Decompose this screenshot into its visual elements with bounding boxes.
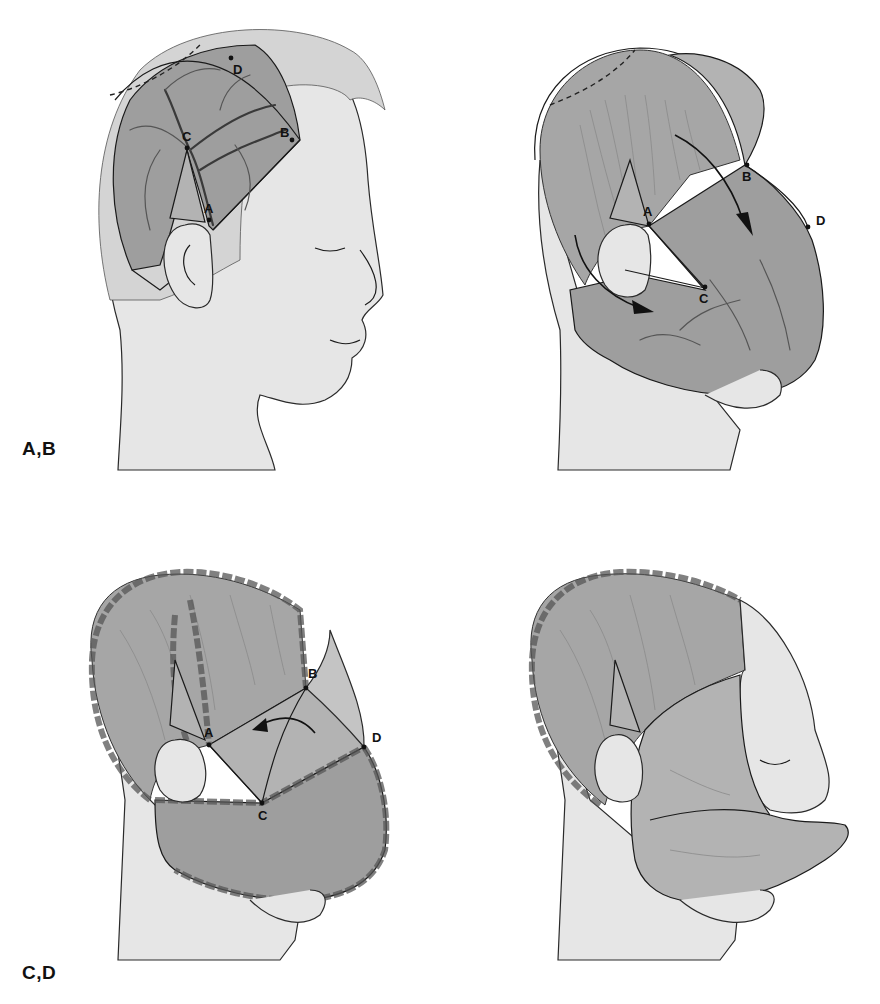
- panel-label-ab: A,B: [22, 438, 56, 460]
- surgical-illustration-figure: C D B A: [0, 0, 880, 1004]
- point-label-d: D: [233, 62, 242, 77]
- point-label-c: C: [699, 291, 709, 306]
- panel-c-flap-inset: A B C D: [0, 470, 440, 1004]
- point-label-b: B: [742, 169, 751, 184]
- panel-a-drawing: C D B A: [0, 0, 440, 470]
- point-label-c: C: [182, 129, 192, 144]
- panel-b-flap-elevated: A B C D: [440, 0, 880, 470]
- panel-d-drawing: [440, 470, 880, 1004]
- panel-b-drawing: A B C D: [440, 0, 880, 470]
- point-label-d: D: [816, 213, 825, 228]
- point-label-a: A: [204, 725, 214, 740]
- point-label-a: A: [643, 204, 653, 219]
- point-label-a: A: [204, 201, 214, 216]
- panel-c-drawing: A B C D: [0, 470, 440, 1004]
- point-label-d: D: [372, 730, 381, 745]
- panel-label-cd: C,D: [22, 962, 56, 984]
- point-label-b: B: [280, 125, 289, 140]
- point-label-c: C: [258, 808, 268, 823]
- point-label-b: B: [308, 666, 317, 681]
- panel-a-preoperative-flap-design: C D B A: [0, 0, 440, 470]
- panel-d-final-result: [440, 470, 880, 1004]
